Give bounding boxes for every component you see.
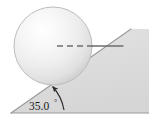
angle-label-value: 35.0 <box>29 100 49 112</box>
angle-degree-symbol: ° <box>54 98 57 107</box>
physics-figure-sphere-on-incline: 35.0 ° <box>0 0 149 124</box>
figure-canvas: 35.0 ° <box>0 0 149 124</box>
